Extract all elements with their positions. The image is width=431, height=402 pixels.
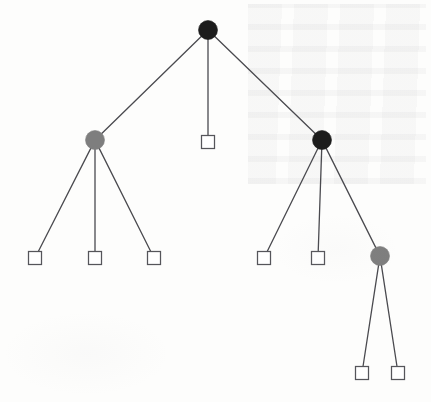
tree-edge	[267, 147, 318, 251]
tree-edge	[99, 147, 151, 251]
tree-node-square-leaf	[312, 252, 325, 265]
tree-node-circle-gray	[371, 247, 390, 266]
tree-node-square-leaf	[89, 252, 102, 265]
tree-node-circle-black	[199, 21, 218, 40]
tree-node-circle-gray	[86, 131, 105, 150]
tree-node-square-leaf	[392, 367, 405, 380]
tree-node-square-leaf	[258, 252, 271, 265]
tree-diagram-canvas	[0, 0, 431, 402]
tree-node-square-leaf	[202, 136, 215, 149]
tree-edge	[38, 147, 91, 251]
tree-edge	[381, 264, 397, 367]
tree-svg	[0, 0, 431, 402]
tree-edge	[363, 264, 379, 367]
tree-edge	[326, 147, 377, 249]
tree-node-square-leaf	[356, 367, 369, 380]
tree-edge	[214, 36, 316, 135]
edge-layer	[38, 36, 397, 367]
tree-edge	[318, 148, 322, 252]
tree-node-square-leaf	[29, 252, 42, 265]
node-layer	[29, 21, 405, 380]
tree-node-square-leaf	[148, 252, 161, 265]
tree-node-circle-black	[313, 131, 332, 150]
tree-edge	[101, 36, 203, 135]
